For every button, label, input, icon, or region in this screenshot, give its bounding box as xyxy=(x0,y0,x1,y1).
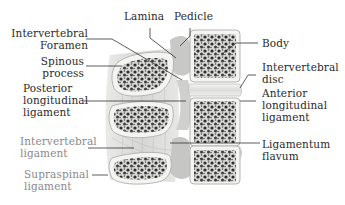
label-line: ligament xyxy=(262,111,327,123)
label-line: disc xyxy=(262,73,339,85)
vertebral-body-lower-core xyxy=(194,150,236,182)
label-intervertebral-foramen: Intervertebral Foramen xyxy=(8,27,88,51)
label-spinous-process: Spinous process xyxy=(30,55,84,79)
label-line: Posterior xyxy=(23,82,88,94)
label-line: Ligamentum xyxy=(262,138,330,150)
label-line: Foramen xyxy=(8,39,88,51)
vertebral-body-upper-core xyxy=(194,34,236,78)
vertebral-body-middle-core xyxy=(194,101,236,143)
label-line: Anterior xyxy=(262,87,327,99)
label-line: longitudinal xyxy=(23,94,88,106)
label-pedicle: Pedicle xyxy=(174,10,213,22)
label-line: ligament xyxy=(20,147,97,159)
label-line: Intervertebral xyxy=(20,135,97,147)
label-ligamentum-flavum: Ligamentum flavum xyxy=(262,138,330,162)
leader-intervertebral-disc xyxy=(240,75,256,88)
label-line: flavum xyxy=(262,150,330,162)
label-supraspinal-ligament: Supraspinal ligament xyxy=(24,168,89,192)
label-line: Spinous xyxy=(30,55,84,67)
label-body: Body xyxy=(262,37,289,49)
intervertebral-disc-upper xyxy=(189,84,242,96)
label-line: ligament xyxy=(23,106,88,118)
label-line: Intervertebral xyxy=(8,27,88,39)
spinous-process-middle-core xyxy=(114,106,169,133)
label-intervertebral-disc: Intervertebral disc xyxy=(262,61,339,85)
label-lamina: Lamina xyxy=(124,10,164,22)
label-line: ligament xyxy=(24,180,89,192)
label-intervertebral-ligament: Intervertebral ligament xyxy=(20,135,97,159)
label-line: Supraspinal xyxy=(24,168,89,180)
label-line: Intervertebral xyxy=(262,61,339,73)
label-line: process xyxy=(30,67,84,79)
label-posterior-longitudinal-ligament: Posterior longitudinal ligament xyxy=(23,82,88,118)
label-line: longitudinal xyxy=(262,99,327,111)
label-anterior-longitudinal-ligament: Anterior longitudinal ligament xyxy=(262,87,327,123)
spinous-process-lower-core xyxy=(114,157,167,180)
